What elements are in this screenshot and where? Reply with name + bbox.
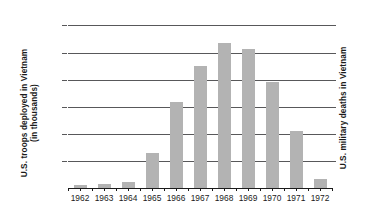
bar-1969 <box>242 49 255 188</box>
right-tick-mark-400 <box>332 80 336 81</box>
bar-1972 <box>314 179 327 188</box>
right-tick-mark-300 <box>332 107 336 108</box>
x-tick-mark-1962 <box>80 188 81 191</box>
x-tick-mark-1968 <box>224 188 225 191</box>
x-tick-label-1972: 1972 <box>300 193 340 203</box>
x-tick-mark-1971 <box>296 188 297 191</box>
right-tick-mark-600 <box>332 25 336 26</box>
x-tick-edge-3 <box>140 188 141 191</box>
x-tick-mark-1964 <box>128 188 129 191</box>
y-tick-mark-400 <box>62 80 67 81</box>
x-tick-mark-1965 <box>152 188 153 191</box>
gridline-500 <box>68 53 332 54</box>
y-tick-mark-500 <box>62 53 67 54</box>
bar-1965 <box>146 153 159 188</box>
y-axis-title-left-line1: U.S. troops deployed in Vietnam <box>20 49 29 178</box>
right-tick-mark-500 <box>332 53 336 54</box>
x-tick-mark-1972 <box>320 188 321 191</box>
x-tick-edge-7 <box>236 188 237 191</box>
bar-1970 <box>266 82 279 188</box>
x-tick-mark-1969 <box>248 188 249 191</box>
x-tick-mark-1963 <box>104 188 105 191</box>
x-tick-mark-1967 <box>200 188 201 191</box>
x-tick-edge-5 <box>188 188 189 191</box>
y-tick-mark-100 <box>62 161 67 162</box>
x-tick-edge-6 <box>212 188 213 191</box>
x-tick-edge-2 <box>116 188 117 191</box>
y-tick-mark-200 <box>62 134 67 135</box>
y-axis-title-left: U.S. troops deployed in Vietnam (in thou… <box>20 28 40 198</box>
bar-1971 <box>290 131 303 188</box>
x-axis <box>68 188 332 189</box>
x-tick-edge-10 <box>308 188 309 191</box>
bar-1968 <box>218 43 231 188</box>
y-axis-title-right: U.S. military deaths in Vietnam <box>339 23 349 193</box>
plot-area <box>68 20 332 188</box>
gridline-600 <box>68 25 332 26</box>
x-tick-edge-1 <box>92 188 93 191</box>
y-tick-mark-600 <box>62 25 67 26</box>
chart-figure: U.S. troops deployed in Vietnam (in thou… <box>0 0 366 224</box>
x-tick-edge-0 <box>68 188 69 191</box>
x-tick-mark-1966 <box>176 188 177 191</box>
right-tick-mark-100 <box>332 161 336 162</box>
x-tick-edge-8 <box>260 188 261 191</box>
y-axis-title-left-line2: (in thousands) <box>30 28 40 198</box>
y-tick-mark-300 <box>62 107 67 108</box>
x-tick-edge-9 <box>284 188 285 191</box>
x-tick-mark-1970 <box>272 188 273 191</box>
x-tick-edge-4 <box>164 188 165 191</box>
x-tick-edge-end <box>332 188 333 191</box>
bar-1966 <box>170 102 183 188</box>
right-tick-mark-200 <box>332 134 336 135</box>
bar-1967 <box>194 66 207 188</box>
